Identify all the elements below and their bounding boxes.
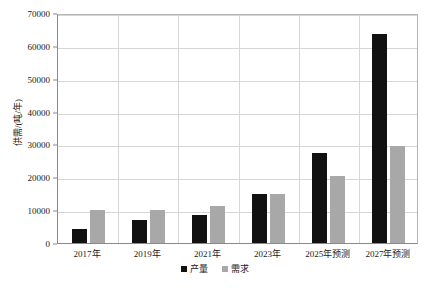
x-axis-tick-label: 2019年 <box>134 248 161 260</box>
bar-production <box>312 153 327 243</box>
legend-label: 产量 <box>190 264 208 274</box>
bar-demand <box>210 206 225 243</box>
bar-demand <box>330 176 345 243</box>
bar-production <box>372 34 387 243</box>
x-axis-ticks: 2017年2019年2021年2023年2025年预测2027年预测 <box>57 248 418 264</box>
bar-demand <box>270 194 285 243</box>
y-axis-tick-label: 70000 <box>28 10 51 19</box>
y-axis-tick-label: 10000 <box>28 207 51 216</box>
x-axis-tick-label: 2017年 <box>74 248 101 260</box>
y-axis-tick-label: 60000 <box>28 42 51 51</box>
x-axis-tick-label: 2027年预测 <box>365 248 410 260</box>
y-axis-tick-label: 50000 <box>28 75 51 84</box>
bar-group <box>118 15 178 243</box>
y-axis-ticks: 010000200003000040000500006000070000 <box>0 0 57 288</box>
bar-group <box>299 15 359 243</box>
bar-demand <box>390 146 405 243</box>
plot-area <box>57 14 418 244</box>
bar-group <box>239 15 299 243</box>
bar-demand <box>150 210 165 243</box>
bar-production <box>252 194 267 243</box>
bar-production <box>192 215 207 243</box>
bar-chart: 供需/(吨/年) 0100002000030000400005000060000… <box>0 0 430 288</box>
x-axis-tick-label: 2025年预测 <box>305 248 350 260</box>
x-axis-tick-label: 2021年 <box>194 248 221 260</box>
legend-label: 需求 <box>231 264 249 274</box>
y-axis-tick-label: 20000 <box>28 174 51 183</box>
x-axis-tick-label: 2023年 <box>254 248 281 260</box>
legend-swatch-icon <box>181 266 187 272</box>
chart-legend: 产量需求 <box>0 264 430 274</box>
bar-production <box>132 220 147 243</box>
y-axis-tick-label: 30000 <box>28 141 51 150</box>
y-axis-tick-label: 40000 <box>28 108 51 117</box>
bar-demand <box>90 210 105 243</box>
bar-group <box>58 15 118 243</box>
bar-production <box>72 229 87 243</box>
bar-group <box>359 15 419 243</box>
legend-swatch-icon <box>222 266 228 272</box>
legend-item[interactable]: 需求 <box>222 264 249 274</box>
legend-item[interactable]: 产量 <box>181 264 208 274</box>
y-axis-tick-label: 0 <box>46 240 51 249</box>
bar-group <box>178 15 238 243</box>
